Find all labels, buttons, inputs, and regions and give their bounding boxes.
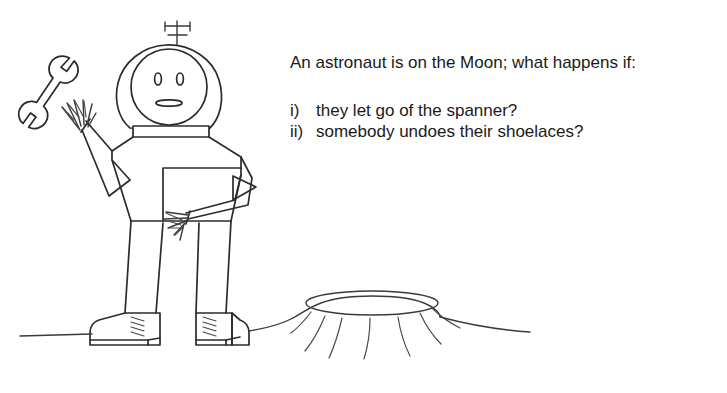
left-arm xyxy=(82,121,130,196)
option-marker-i: i) xyxy=(290,100,316,121)
legs xyxy=(125,221,231,313)
option-row-i: i) they let go of the spanner? xyxy=(290,100,710,121)
right-boot-lace-2 xyxy=(203,322,216,326)
crater-rim xyxy=(306,291,438,315)
cartoon-page: An astronaut is on the Moon; what happen… xyxy=(0,0,727,393)
question-line: An astronaut is on the Moon; what happen… xyxy=(290,52,710,73)
helmet-antenna-icon xyxy=(165,21,190,47)
left-leg-outer xyxy=(125,221,131,313)
right-boot xyxy=(196,313,249,345)
option-text-ii: somebody undoes their shoelaces? xyxy=(316,121,583,142)
left-boot-lace-2 xyxy=(131,322,144,326)
left-boot-lace-4 xyxy=(131,332,144,336)
right-hand-on-hip xyxy=(164,211,190,240)
option-row-ii: ii) somebody undoes their shoelaces? xyxy=(290,121,710,142)
space-helmet xyxy=(117,45,222,129)
left-boot-lace-3 xyxy=(131,327,144,331)
right-leg-outer xyxy=(226,221,231,313)
caption-text-block: An astronaut is on the Moon; what happen… xyxy=(290,52,710,142)
spacesuit-torso xyxy=(112,137,241,221)
left-boot-lace-1 xyxy=(131,317,144,321)
option-marker-ii: ii) xyxy=(290,121,316,142)
right-boot-lace-4 xyxy=(203,332,216,336)
right-arm-on-hip xyxy=(186,157,256,219)
option-text-i: they let go of the spanner? xyxy=(316,100,517,121)
left-leg-inner xyxy=(156,223,163,313)
options-list: i) they let go of the spanner? ii) someb… xyxy=(290,100,710,142)
right-boot-lace-3 xyxy=(203,327,216,331)
helmet-neck-ring xyxy=(133,126,209,137)
moon-crater xyxy=(291,291,460,359)
spanner-icon xyxy=(19,56,78,128)
left-boot xyxy=(90,313,160,345)
right-boot-lace-1 xyxy=(203,317,216,321)
lunar-ground-line xyxy=(20,317,530,336)
right-leg-inner xyxy=(196,223,199,313)
